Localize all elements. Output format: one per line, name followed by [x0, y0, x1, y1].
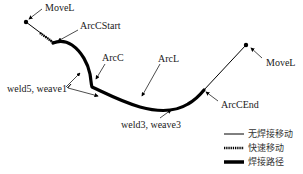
- legend-label-weld-path: 焊接路径: [248, 156, 284, 167]
- label-arccend: ArcCEnd: [221, 99, 259, 110]
- arrow-weld5-weave1-up: [66, 73, 80, 87]
- label-weld5-weave1: weld5, weave1: [7, 83, 67, 94]
- label-movel-start: MoveL: [45, 2, 74, 13]
- movel-end-point: [244, 43, 248, 47]
- arrow-movel-start: [29, 9, 42, 19]
- arrow-arcl: [142, 64, 160, 96]
- welding-path-diagram: MoveL ArcCStart ArcC ArcL MoveL weld5, w…: [0, 0, 303, 174]
- non-weld-move-line: [203, 45, 246, 91]
- label-weld3-weave3: weld3, weave3: [121, 119, 181, 130]
- arrow-arcc: [96, 64, 105, 79]
- weld-path: [53, 41, 204, 110]
- arrow-movel-end: [251, 48, 262, 58]
- arrow-weld5-weave1: [67, 84, 98, 96]
- arrow-arccend: [206, 92, 218, 101]
- label-movel-end: MoveL: [266, 57, 295, 68]
- arrow-arccstart: [58, 30, 78, 41]
- label-arccstart: ArcCStart: [80, 20, 121, 31]
- label-arcc: ArcC: [102, 52, 124, 63]
- label-arcl: ArcL: [158, 53, 179, 64]
- legend: 无焊接移动 快速移动 焊接路径: [224, 128, 293, 167]
- legend-label-rapid-move: 快速移动: [248, 142, 284, 153]
- legend-label-no-weld-move: 无焊接移动: [248, 128, 293, 139]
